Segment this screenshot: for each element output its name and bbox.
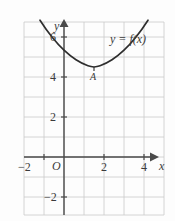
curve-equation-label: y = f(x) (110, 33, 146, 45)
grid-horizontal-lines (24, 22, 164, 215)
y-tick-label-2: 2 (50, 111, 56, 123)
vertex-point-label: A (90, 72, 96, 82)
x-tick-label-4: 4 (141, 161, 147, 173)
x-axis-label: x (159, 160, 164, 172)
y-axis-label: y (54, 20, 59, 32)
x-tick-label-2: 2 (101, 161, 107, 173)
grid-vertical-lines (24, 22, 164, 215)
y-tick-label-4: 4 (50, 71, 56, 83)
plot-canvas (0, 0, 175, 221)
x-tick-label-neg2: −2 (18, 161, 31, 173)
y-tick-label-neg2: −2 (44, 191, 57, 203)
graph-figure: 6 4 2 −2 −2 2 4 O y x y = f(x) A (0, 0, 175, 221)
origin-label: O (52, 160, 61, 172)
